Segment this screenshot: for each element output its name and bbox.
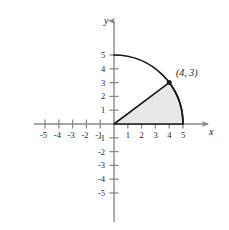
x-tick-label-2: 2	[140, 131, 144, 140]
y-tick-label--4: -4	[98, 175, 105, 184]
x-tick-label--5: -5	[40, 131, 47, 140]
x-tick-label-4: 4	[167, 131, 171, 140]
x-tick-label-5: 5	[181, 131, 185, 140]
y-tick-label-1: 1	[101, 106, 105, 115]
y-tick-label--5: -5	[98, 189, 105, 198]
y-tick-label-2: 2	[101, 92, 105, 101]
x-tick-label-3: 3	[153, 131, 157, 140]
point-marker-4-3	[167, 80, 172, 85]
y-axis-label: y	[104, 16, 108, 26]
y-tick-label--1: -1	[98, 134, 105, 143]
y-tick-label--3: -3	[98, 161, 105, 170]
x-tick-label-1: 1	[126, 131, 130, 140]
y-tick-label-3: 3	[101, 79, 105, 88]
y-tick-label--2: -2	[98, 148, 105, 157]
x-axis-label: x	[209, 127, 213, 137]
x-tick-label--3: -3	[68, 131, 75, 140]
point-label-4-3: (4, 3)	[176, 68, 198, 78]
y-tick-label-4: 4	[101, 65, 105, 74]
plot-canvas	[0, 0, 229, 230]
x-tick-label--4: -4	[54, 131, 61, 140]
coordinate-plane-figure: -5 -4 -3 -2 -1 1 2 3 4 5 5 4 3 2 1 -1 -2…	[0, 0, 229, 230]
y-tick-label-5: 5	[101, 51, 105, 60]
x-tick-label--2: -2	[81, 131, 88, 140]
